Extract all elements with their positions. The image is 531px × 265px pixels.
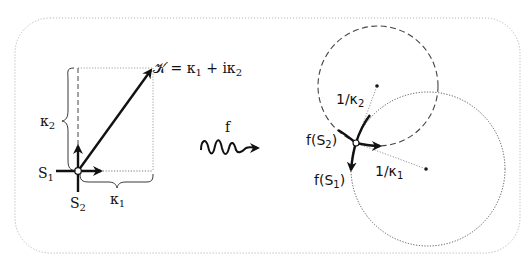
diagram-canvas: 𝒦 = κ1 + iκ2 κ2 κ1 S1 S2 f bbox=[0, 0, 531, 265]
k2-brace-label: κ2 bbox=[40, 113, 55, 131]
k1-brace-label: κ1 bbox=[110, 191, 125, 209]
junction-point bbox=[353, 140, 359, 146]
s2-axis-label: S2 bbox=[70, 195, 86, 213]
f-s2-curve-up bbox=[356, 115, 370, 143]
map-f-arrow: f bbox=[201, 119, 258, 154]
k1-brace bbox=[80, 174, 153, 188]
k-vector-arrow bbox=[78, 70, 151, 171]
k2-brace bbox=[62, 68, 76, 171]
f-s1-arrow-down bbox=[351, 143, 356, 170]
frame-border bbox=[15, 18, 520, 253]
squiggle-arrow-icon bbox=[201, 140, 258, 154]
k-vector-label: 𝒦 = κ1 + iκ2 bbox=[153, 60, 242, 78]
map-label-f: f bbox=[225, 119, 232, 135]
s1-axis-label: S1 bbox=[38, 165, 54, 183]
right-panel: f(S2) f(S1) 1/κ2 1/κ1 bbox=[306, 26, 505, 246]
f-s1-label: f(S1) bbox=[314, 172, 345, 190]
radius-label-k2: 1/κ2 bbox=[336, 91, 364, 109]
left-panel: 𝒦 = κ1 + iκ2 κ2 κ1 S1 S2 bbox=[38, 60, 242, 213]
f-s2-label: f(S2) bbox=[306, 132, 337, 150]
radius-label-k1: 1/κ1 bbox=[375, 163, 403, 181]
f-s1-arrow-right bbox=[356, 143, 380, 146]
